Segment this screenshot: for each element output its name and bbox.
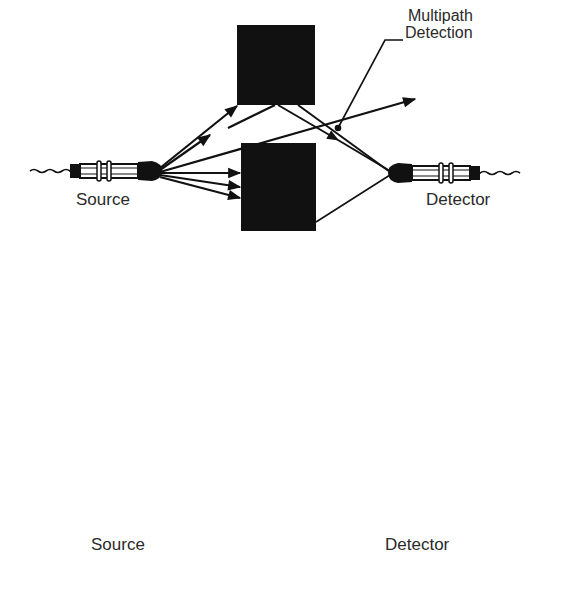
multipath-detection-figure: Multipath Detection Source Detector Sour… [0,0,569,591]
detector-sensor-icon [388,163,520,183]
callout-line-1: Multipath [408,7,473,24]
upper-obstruction-block [237,25,315,105]
top-detector-label: Detector [426,190,490,209]
source-sensor-icon [30,161,162,181]
diagram-canvas [0,0,569,591]
lower-obstruction-block [241,143,316,231]
top-source-label: Source [76,190,130,209]
bottom-source-label: Source [91,535,145,554]
callout-line-2: Detection [405,24,473,41]
multipath-detection-callout: Multipath Detection [408,7,473,41]
multipath-callout-leader [336,40,404,131]
bottom-detector-label: Detector [385,535,449,554]
